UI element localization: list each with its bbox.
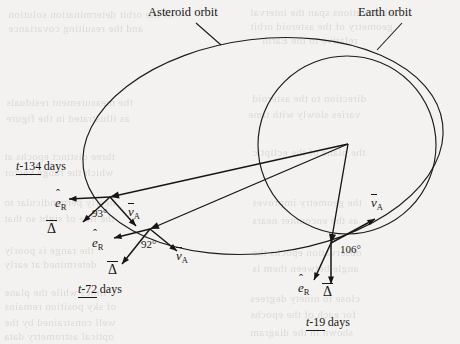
t-72-vector-v_A-label: vA — [176, 249, 188, 262]
range-arrow-t19 — [331, 144, 348, 243]
asteroid-orbit-label: Asteroid orbit — [148, 5, 218, 19]
figure-root: of the orbit determination solutionand t… — [0, 0, 460, 344]
time-label-t-19: t-19days — [306, 316, 350, 328]
t-19-angle-label: 106° — [340, 243, 361, 255]
asteroid-orbit-path — [70, 18, 455, 275]
t-134-vector-e_R-head — [69, 196, 77, 202]
callout-leader-group — [196, 23, 402, 50]
t-72-vector-e_R-label: eR — [92, 236, 103, 249]
range-arrow-t72-head — [150, 222, 160, 229]
t-19-vector-e_R-label: eR — [298, 281, 309, 294]
time-label-t-72: t-72days — [78, 283, 122, 295]
orbit-paths-group — [70, 18, 455, 275]
t-134-vector-v_A-label: vA — [128, 205, 140, 218]
callout-text-group: Asteroid orbitEarth orbit — [148, 5, 412, 19]
orbit-diagram-svg: 93°92°106° Asteroid orbitEarth orbit — [0, 0, 460, 344]
time-label-t-134: t-134days — [16, 160, 66, 172]
t-19-vector-e_R-head — [314, 272, 320, 280]
t-134-angle-label: 93° — [92, 207, 107, 219]
t-134-vector-Delta-label: Δ — [47, 222, 56, 236]
range-arrow-t134 — [110, 144, 348, 197]
t-72-vector-Delta-label: Δ — [108, 263, 117, 277]
range-vector-group — [110, 144, 348, 243]
asteroid-orbit-leader-line — [196, 23, 221, 45]
earth-orbit-label: Earth orbit — [358, 5, 412, 19]
t-19-vector-Delta-label: Δ — [323, 285, 332, 299]
t-19-vector-v_A-label: vA — [371, 196, 383, 209]
range-arrow-t72 — [150, 144, 348, 229]
earth-orbit-leader-line — [377, 23, 402, 50]
t-134-vector-e_R-label: eR — [55, 196, 66, 209]
t-72-angle-label: 92° — [141, 238, 156, 250]
